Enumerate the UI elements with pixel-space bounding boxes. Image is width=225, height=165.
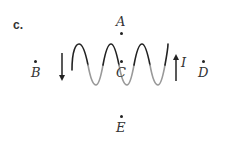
point-a-dot [120,32,123,35]
point-c-label: C [116,66,126,79]
point-e-dot [120,115,123,118]
point-b-label: B [31,66,41,79]
point-e-label: E [116,121,126,134]
coil-wire [72,44,88,70]
point-d-label: D [198,66,208,79]
coil-drawing [0,0,225,165]
solenoid-diagram: c. A B C D E I [0,0,225,165]
point-d-dot [202,60,205,63]
current-arrow-down-icon [59,53,65,81]
point-a-label: A [116,15,125,28]
part-label: c. [13,18,23,32]
point-b-dot [34,60,37,63]
current-label: I [181,56,186,69]
current-arrow-up-icon [173,54,179,81]
point-c-dot [120,60,123,63]
